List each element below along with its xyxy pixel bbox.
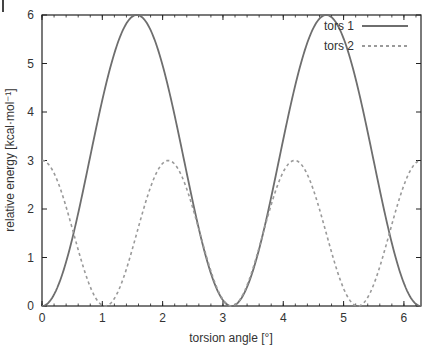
y-tick-label: 2: [27, 202, 34, 216]
x-tick-label: 0: [39, 311, 46, 325]
plot-frame: [42, 15, 421, 306]
y-tick-label: 3: [27, 154, 34, 168]
series-lines: [42, 15, 421, 306]
legend-label: tors 1: [324, 19, 354, 33]
y-tick-label: 0: [27, 299, 34, 313]
x-tick-label: 5: [340, 311, 347, 325]
x-axis-label: torsion angle [°]: [189, 331, 273, 345]
y-tick-label: 6: [27, 8, 34, 22]
x-tick-label: 4: [280, 311, 287, 325]
x-tick-label: 3: [220, 311, 227, 325]
series-tors-1: [42, 15, 421, 306]
series-tors-2: [42, 161, 421, 307]
x-tick-label: 6: [401, 311, 408, 325]
y-tick-label: 1: [27, 251, 34, 265]
legend-label: tors 2: [324, 39, 354, 53]
y-tick-label: 4: [27, 105, 34, 119]
y-axis-label: relative energy [kcal·mol⁻¹]: [3, 88, 17, 231]
legend: tors 1tors 2: [324, 19, 408, 53]
x-tick-label: 2: [159, 311, 166, 325]
x-tick-label: 1: [99, 311, 106, 325]
line-chart: 01234560123456 tors 1tors 2 torsion angl…: [0, 0, 427, 352]
y-tick-label: 5: [27, 57, 34, 71]
